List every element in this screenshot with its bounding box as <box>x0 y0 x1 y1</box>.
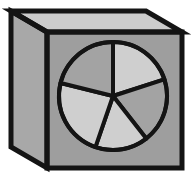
pie-chart-group <box>59 42 167 150</box>
cube-left-face <box>11 11 47 168</box>
figure-stage: Shaded cube with five-slice pie circle o… <box>0 0 193 181</box>
cube-with-pie-illustration <box>0 0 193 181</box>
